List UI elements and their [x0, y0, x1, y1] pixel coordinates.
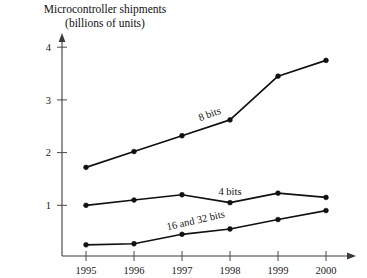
series-data-point — [132, 241, 137, 246]
chart-axes — [59, 33, 356, 259]
series-data-point — [132, 149, 137, 154]
series-data-point — [228, 200, 233, 205]
series-labels: 8 bits4 bits16 and 32 bits — [166, 105, 242, 232]
series-data-point — [180, 232, 185, 237]
series-data-point — [324, 208, 329, 213]
series-data-point — [276, 74, 281, 79]
y-axis-arrow-icon — [59, 33, 66, 42]
series-data-point — [84, 242, 89, 247]
series-data-point — [132, 198, 137, 203]
x-tick-label: 1998 — [220, 265, 241, 276]
x-tick-label: 1997 — [172, 265, 193, 276]
series-data-point — [276, 191, 281, 196]
series-data-point — [84, 165, 89, 170]
series-inline-label: 16 and 32 bits — [166, 208, 226, 232]
x-tick-label: 1999 — [268, 265, 289, 276]
series-data-point — [84, 203, 89, 208]
series-data-point — [180, 192, 185, 197]
y-tick-label: 1 — [46, 200, 51, 211]
series-inline-label: 8 bits — [197, 105, 222, 123]
x-tick-label: 1995 — [76, 265, 97, 276]
line-chart-plot: 1234 199519961997199819992000 8 bits4 bi… — [0, 0, 367, 278]
series-data-point — [228, 227, 233, 232]
x-tick-label: 2000 — [316, 265, 337, 276]
series-line — [86, 193, 326, 205]
x-axis-ticks: 199519961997199819992000 — [76, 251, 337, 276]
y-tick-label: 4 — [46, 42, 52, 53]
series-data-point — [180, 133, 185, 138]
series-data-point — [324, 58, 329, 63]
series-data-point — [228, 118, 233, 123]
y-tick-label: 2 — [46, 147, 51, 158]
x-tick-label: 1996 — [124, 265, 145, 276]
chart-figure: Microcontroller shipments (billions of u… — [0, 0, 367, 278]
series-data-point — [276, 217, 281, 222]
series-data-point — [324, 195, 329, 200]
y-tick-label: 3 — [46, 95, 51, 106]
y-axis-ticks: 1234 — [46, 42, 67, 211]
series-inline-label: 4 bits — [218, 186, 241, 197]
x-axis-arrow-icon — [347, 253, 356, 260]
